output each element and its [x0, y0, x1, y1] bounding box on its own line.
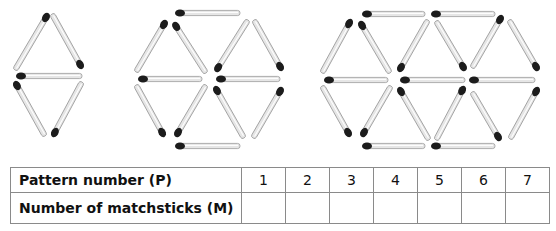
- matchstick: [211, 84, 247, 139]
- matchsticks-cell-1[interactable]: [242, 193, 286, 224]
- matchstick: [49, 80, 85, 138]
- table-row-matchsticks: Number of matchsticks (M): [11, 193, 550, 224]
- matchstick: [12, 11, 52, 72]
- pattern-number-cell-7: 7: [506, 168, 550, 193]
- matchstick: [170, 20, 209, 75]
- match-head: [431, 142, 441, 149]
- matchstick: [175, 142, 240, 149]
- matchstick: [138, 75, 202, 82]
- matchstick: [362, 142, 425, 149]
- pattern-number-cell-5: 5: [418, 168, 462, 193]
- matchstick: [395, 85, 432, 141]
- matchstick: [433, 84, 468, 141]
- matchstick: [319, 84, 354, 138]
- matchsticks-cell-7[interactable]: [506, 193, 550, 224]
- pattern-number-cell-4: 4: [374, 168, 418, 193]
- matchstick: [356, 19, 393, 75]
- matchstick: [216, 75, 280, 82]
- match-head: [431, 10, 441, 17]
- matchsticks-cell-5[interactable]: [418, 193, 462, 224]
- row-label-pattern-number: Pattern number (P): [11, 168, 242, 193]
- pattern-matchstick-table: Pattern number (P) 1 2 3 4 5 6 7 Number …: [10, 167, 550, 224]
- matchstick: [250, 85, 286, 139]
- match-head: [16, 72, 26, 79]
- matchstick: [469, 90, 504, 142]
- matchsticks-cell-2[interactable]: [286, 193, 330, 224]
- matchstick: [133, 83, 168, 138]
- matchstick: [133, 18, 170, 74]
- pattern-number-cell-2: 2: [286, 168, 330, 193]
- matchstick: [431, 10, 495, 17]
- matchstick: [16, 72, 82, 79]
- pattern-1-diamond: [11, 11, 85, 138]
- matchstick: [431, 142, 495, 149]
- pattern-2-hexagon: [133, 9, 286, 149]
- pattern-number-cell-1: 1: [242, 168, 286, 193]
- matchstick: [400, 76, 465, 83]
- matchstick: [49, 12, 86, 70]
- matchstick: [324, 76, 388, 83]
- matchstick: [362, 10, 425, 17]
- pattern-3-double-hexagon: [319, 10, 542, 149]
- match-head: [469, 76, 479, 83]
- matchstick: [11, 79, 48, 137]
- matchsticks-cell-3[interactable]: [330, 193, 374, 224]
- matchstick: [469, 13, 506, 69]
- match-head: [216, 75, 226, 82]
- matchstick: [251, 18, 286, 72]
- match-head: [175, 9, 185, 16]
- matchstick: [319, 17, 355, 74]
- matchstick-patterns-figure: [0, 0, 556, 160]
- matchstick: [506, 18, 542, 72]
- matchstick: [433, 19, 469, 73]
- matchsticks-cell-6[interactable]: [462, 193, 506, 224]
- pattern-number-cell-6: 6: [462, 168, 506, 193]
- matchstick: [175, 9, 240, 16]
- table-row-pattern-number: Pattern number (P) 1 2 3 4 5 6 7: [11, 168, 550, 193]
- matchstick: [469, 76, 535, 83]
- match-head: [138, 75, 148, 82]
- matchstick: [172, 83, 209, 139]
- matchstick: [358, 84, 394, 138]
- matchstick: [212, 18, 251, 74]
- row-label-matchsticks: Number of matchsticks (M): [11, 193, 242, 224]
- match-head: [362, 142, 372, 149]
- match-head: [362, 10, 372, 17]
- match-head: [400, 76, 410, 83]
- matchstick: [395, 18, 431, 73]
- match-head: [324, 76, 334, 83]
- match-head: [175, 142, 185, 149]
- pattern-number-cell-3: 3: [330, 168, 374, 193]
- matchstick: [507, 85, 542, 140]
- pattern-table: Pattern number (P) 1 2 3 4 5 6 7 Number …: [10, 167, 550, 224]
- matchsticks-cell-4[interactable]: [374, 193, 418, 224]
